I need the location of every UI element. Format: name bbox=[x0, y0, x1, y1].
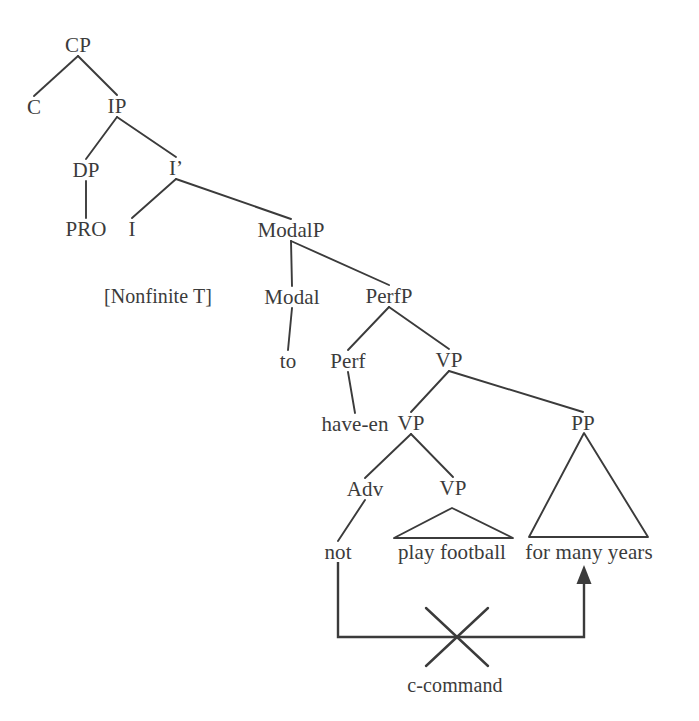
tree-node-vp-top: VP bbox=[435, 350, 462, 371]
tree-node-modal: Modal bbox=[264, 287, 319, 308]
tree-node-pro: PRO bbox=[65, 219, 106, 240]
tree-node-c-command: c-command bbox=[407, 675, 502, 695]
tree-node-play-football: play football bbox=[398, 542, 506, 563]
tree-node-c: C bbox=[27, 97, 41, 118]
tree-node-to: to bbox=[280, 351, 297, 372]
tree-node-cp: CP bbox=[65, 35, 91, 56]
tree-node-not: not bbox=[324, 542, 351, 563]
tree-node-have-en: have-en bbox=[321, 414, 388, 435]
tree-node-nonfinitet: [Nonfinite T] bbox=[104, 286, 212, 306]
tree-node-perf: Perf bbox=[330, 351, 365, 372]
tree-node-layer: CPCIPDPI’PROIModalP[Nonfinite T]ModalPer… bbox=[0, 0, 699, 721]
tree-node-i: I bbox=[128, 219, 135, 240]
tree-node-adv: Adv bbox=[347, 479, 383, 500]
tree-node-ibar: I’ bbox=[169, 158, 183, 179]
tree-node-vp-low: VP bbox=[439, 478, 466, 499]
tree-node-ip: IP bbox=[108, 96, 127, 117]
tree-node-pp: PP bbox=[571, 413, 595, 434]
tree-node-vp-mid: VP bbox=[397, 413, 424, 434]
tree-node-modalp: ModalP bbox=[257, 220, 324, 241]
tree-node-dp: DP bbox=[72, 160, 99, 181]
tree-node-for-many-years: for many years bbox=[525, 542, 652, 563]
tree-node-perfp: PerfP bbox=[365, 286, 412, 307]
